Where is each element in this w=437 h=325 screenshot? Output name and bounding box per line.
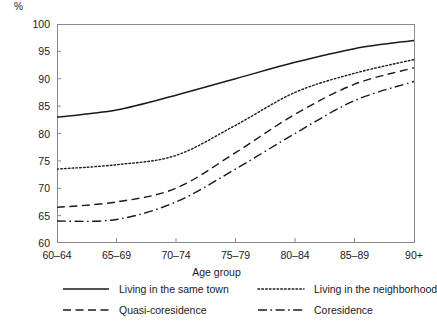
legend-line-sample-dashed xyxy=(62,305,110,315)
y-axis-tick-label: 85 xyxy=(4,101,50,112)
x-axis-tick-label: 60–64 xyxy=(42,250,71,261)
legend-item: Quasi-coresidence xyxy=(62,304,207,316)
legend-item: Living in the neighborhood xyxy=(257,283,437,295)
x-axis-tick-label: 65–69 xyxy=(102,250,131,261)
y-axis-tick-label: 65 xyxy=(4,211,50,222)
series-line xyxy=(57,81,414,221)
y-axis-tick-label: 95 xyxy=(4,46,50,57)
plot-lines xyxy=(57,24,415,243)
x-axis-tick-label: 75–79 xyxy=(221,250,250,261)
y-axis-tick-label: 60 xyxy=(4,238,50,249)
y-axis-tick-label: 90 xyxy=(4,74,50,85)
x-axis-tick-label: 80–84 xyxy=(280,250,309,261)
x-axis-tick-label: 85–89 xyxy=(340,250,369,261)
y-axis-tick-label: 80 xyxy=(4,129,50,140)
legend-item: Coresidence xyxy=(257,304,373,316)
legend-label: Living in the same town xyxy=(119,283,229,295)
series-line xyxy=(57,68,414,208)
legend-label: Coresidence xyxy=(314,304,373,316)
x-axis-tick-label: 70–74 xyxy=(161,250,190,261)
legend-label: Living in the neighborhood xyxy=(314,283,437,295)
x-axis-tick-label: 90+ xyxy=(405,250,423,261)
x-axis-title: Age group xyxy=(0,266,433,278)
legend-line-sample-dashdot xyxy=(257,305,305,315)
y-axis-unit-label: % xyxy=(14,2,23,12)
y-axis-tick-label: 75 xyxy=(4,156,50,167)
series-line xyxy=(57,40,414,117)
y-axis-tick-label: 100 xyxy=(4,19,50,30)
y-axis-tick-label: 70 xyxy=(4,183,50,194)
legend-item: Living in the same town xyxy=(62,283,229,295)
legend-line-sample-solid xyxy=(62,284,110,294)
chart-legend: Living in the same townLiving in the nei… xyxy=(0,283,433,325)
legend-line-sample-dotted xyxy=(257,284,305,294)
legend-label: Quasi-coresidence xyxy=(119,304,207,316)
